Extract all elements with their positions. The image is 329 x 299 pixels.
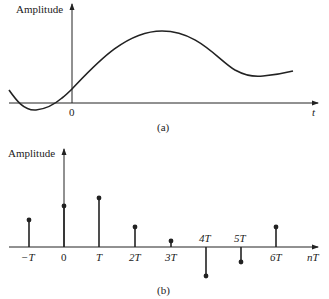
origin-label-a: 0 <box>69 106 75 118</box>
figure-b: Amplitude −T 0 T 2T 3T 4T 5T 6T nT (b) <box>8 147 320 297</box>
x-axis-label-a: t <box>312 106 316 118</box>
tick-label: 5T <box>234 232 247 244</box>
y-axis-label-a: Amplitude <box>16 3 63 15</box>
caption-b: (b) <box>157 284 170 297</box>
figure-a: Amplitude 0 t (a) <box>9 3 318 134</box>
x-axis-label-b: nT <box>307 251 320 263</box>
tick-label: 3T <box>164 251 178 263</box>
tick-label: −T <box>21 251 35 263</box>
tick-label: T <box>96 251 103 263</box>
tick-label: 4T <box>199 232 212 244</box>
caption-a: (a) <box>157 121 170 134</box>
y-axis-label-b: Amplitude <box>8 147 55 159</box>
tick-label: 0 <box>61 251 67 263</box>
analog-signal-curve <box>9 31 293 110</box>
tick-label: 6T <box>270 251 283 263</box>
sampling-diagram: Amplitude 0 t (a) Amplitude −T 0 T 2T 3T… <box>0 0 329 299</box>
tick-label: 2T <box>129 251 142 263</box>
